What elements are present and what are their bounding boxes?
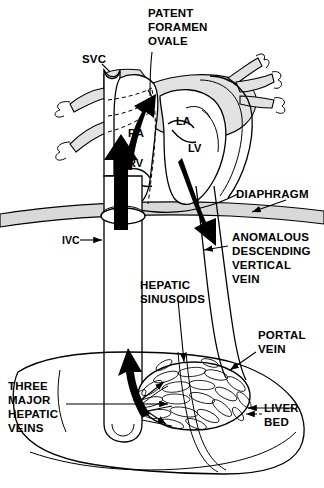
label-ivc: IVC [62, 234, 80, 246]
label-la: LA [176, 115, 191, 127]
label-hepatic-sinusoids-line1: HEPATIC [140, 279, 190, 291]
label-anomalous-vein-line1: ANOMALOUS [232, 231, 309, 243]
label-anomalous-vein-line4: VEIN [232, 273, 260, 285]
label-rv: RV [128, 157, 144, 169]
hepatic-sinusoid-mass [132, 357, 253, 432]
label-hepatic-sinusoids-line2: SINUSOIDS [140, 293, 205, 305]
label-svc: SVC [82, 53, 106, 65]
label-three-hepatic-veins-line4: VEINS [8, 422, 44, 434]
label-anomalous-vein-line3: VERTICAL [232, 259, 291, 271]
label-liver-bed-line1: LIVER [264, 402, 299, 414]
label-patent-foramen-ovale-line1: PATENT [148, 7, 194, 19]
label-patent-foramen-ovale-line3: OVALE [148, 35, 188, 47]
label-three-hepatic-veins-line2: MAJOR [8, 394, 51, 406]
label-portal-vein-line1: PORTAL [258, 329, 306, 341]
label-liver-bed-line2: BED [264, 416, 289, 428]
label-ra: RA [128, 127, 144, 139]
label-diaphragm: DIAPHRAGM [236, 188, 309, 200]
label-lv: LV [188, 142, 202, 154]
diaphragm-band [0, 202, 324, 227]
label-patent-foramen-ovale-line2: FORAMEN [148, 21, 208, 33]
label-portal-vein-line2: VEIN [258, 343, 286, 355]
label-three-hepatic-veins-line3: HEPATIC [8, 408, 58, 420]
left-pulmonary-veins [55, 88, 108, 160]
label-three-hepatic-veins-line1: THREE [8, 380, 48, 392]
label-anomalous-vein-line2: DESCENDING [232, 245, 311, 257]
anatomical-diagram: PATENT FORAMEN OVALE SVC RA RV LA LV DIA… [0, 0, 324, 488]
figure-canvas: PATENT FORAMEN OVALE SVC RA RV LA LV DIA… [0, 0, 324, 488]
